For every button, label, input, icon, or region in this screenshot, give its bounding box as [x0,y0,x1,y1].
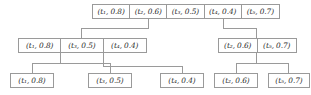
root-cell-5-label: (t₅, 0.7) [247,7,274,16]
middle-right-cell-2-label: (t₅, 0.7) [263,41,290,50]
leaf-node-4: (t₂, 0.6) [214,73,258,88]
root-cell-4: (t₄, 0.4) [205,5,242,18]
root-cell-3-label: (t₃, 0.5) [172,7,199,16]
root-cell-1: (t₁, 0.8) [93,5,130,18]
middle-left-cell-1: (t₁, 0.8) [19,39,61,52]
root-cell-4-label: (t₄, 0.4) [209,7,236,16]
edge-middle-right-to-leaf-5 [257,53,289,73]
leaf-node-1: (t₁, 0.8) [10,73,54,88]
root-cell-3: (t₃, 0.5) [167,5,204,18]
edge-middle-left-to-leaf-2 [61,53,111,73]
edge-root-to-middle-right [224,19,257,38]
middle-left-cell-3-label: (t₄, 0.4) [111,41,138,50]
middle-right-cell-1: (t₂, 0.6) [219,39,258,52]
leaf-node-5: (t₅, 0.7) [268,73,310,88]
leaf-node-4-label: (t₂, 0.6) [222,76,249,85]
middle-right-cell-1-label: (t₂, 0.6) [224,41,251,50]
middle-left-cell-1-label: (t₁, 0.8) [26,41,53,50]
leaf-node-2-label: (t₃, 0.5) [96,76,123,85]
middle-left-node: (t₁, 0.8) (t₃, 0.5) (t₄, 0.4) [18,38,147,53]
root-node: (t₁, 0.8) (t₂, 0.6) (t₃, 0.5) (t₄, 0.4) … [92,4,280,19]
edge-root-to-middle-left [82,19,149,38]
root-cell-2-label: (t₂, 0.6) [135,7,162,16]
leaf-node-3: (t₄, 0.4) [160,73,204,88]
root-cell-1-label: (t₁, 0.8) [97,7,124,16]
edge-middle-right-to-leaf-4 [237,53,257,73]
middle-left-cell-3: (t₄, 0.4) [104,39,146,52]
leaf-node-3-label: (t₄, 0.4) [168,76,195,85]
leaf-node-5-label: (t₅, 0.7) [275,76,302,85]
middle-left-cell-2-label: (t₃, 0.5) [68,41,95,50]
edge-middle-left-to-leaf-3 [104,53,183,73]
leaf-node-1-label: (t₁, 0.8) [18,76,45,85]
root-cell-2: (t₂, 0.6) [130,5,167,18]
root-cell-5: (t₅, 0.7) [242,5,279,18]
middle-left-cell-2: (t₃, 0.5) [61,39,103,52]
middle-right-node: (t₂, 0.6) (t₅, 0.7) [218,38,297,53]
diagram-canvas: (t₁, 0.8) (t₂, 0.6) (t₃, 0.5) (t₄, 0.4) … [0,0,311,95]
middle-right-cell-2: (t₅, 0.7) [258,39,297,52]
leaf-node-2: (t₃, 0.5) [88,73,132,88]
edge-middle-left-to-leaf-1 [33,53,61,73]
